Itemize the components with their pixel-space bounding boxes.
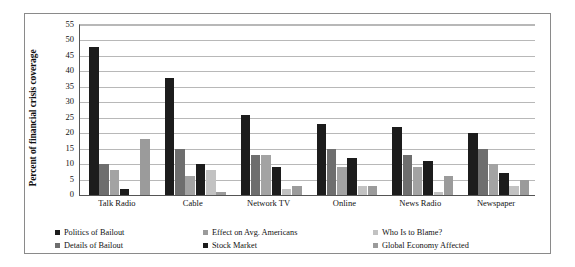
bar — [261, 155, 271, 195]
bar — [478, 149, 488, 195]
bar — [520, 180, 530, 195]
y-tick-label: 25 — [66, 112, 75, 122]
bar-group — [156, 25, 232, 195]
bar — [140, 139, 150, 195]
legend-swatch-icon — [55, 243, 60, 248]
legend-label: Who Is to Blame? — [382, 228, 442, 237]
chart-frame: Percent of financial crisis coverage 555… — [24, 13, 551, 254]
legend-swatch-icon — [203, 243, 208, 248]
bar — [185, 176, 195, 195]
legend-item: Who Is to Blame? — [373, 227, 535, 238]
bar — [347, 158, 357, 195]
bar — [120, 189, 130, 195]
y-tick-label: 5 — [70, 174, 74, 184]
y-axis-ticks: 5550454035302520151050 — [55, 24, 77, 194]
bar-group — [308, 25, 384, 195]
bar — [423, 161, 433, 195]
legend-item: Effect on Avg. Americans — [203, 227, 373, 238]
legend-swatch-icon — [55, 230, 60, 235]
y-tick-label: 15 — [66, 143, 75, 153]
bar-group-bars — [80, 25, 156, 195]
bar — [216, 192, 226, 195]
y-tick-label: 10 — [66, 158, 75, 168]
bar — [282, 189, 292, 195]
bar — [358, 186, 368, 195]
y-tick-label: 40 — [66, 65, 75, 75]
figure-root: Percent of financial crisis coverage 555… — [0, 0, 575, 267]
bar — [499, 173, 509, 195]
legend-swatch-icon — [373, 230, 378, 235]
bar-series-container — [80, 25, 535, 195]
bar-group-bars — [308, 25, 384, 195]
bar — [99, 164, 109, 195]
bar — [403, 155, 413, 195]
bar-group — [459, 25, 535, 195]
bar-group-bars — [383, 25, 459, 195]
x-axis-label: Cable — [155, 198, 231, 208]
legend-item: Details of Bailout — [55, 240, 203, 251]
bar — [434, 192, 444, 195]
bar-group-bars — [156, 25, 232, 195]
y-tick-label: 45 — [66, 50, 75, 60]
x-axis-label: Newspaper — [458, 198, 534, 208]
bar — [317, 124, 327, 195]
legend-label: Politics of Bailout — [64, 228, 124, 237]
legend-item: Global Economy Affected — [373, 240, 535, 251]
y-tick-label: 20 — [66, 127, 75, 137]
y-tick-label: 50 — [66, 34, 75, 44]
legend-swatch-icon — [373, 243, 378, 248]
legend-label: Stock Market — [212, 241, 257, 250]
plot-area-wrapper: Percent of financial crisis coverage 555… — [55, 24, 542, 212]
bar-group — [80, 25, 156, 195]
legend-label: Global Economy Affected — [382, 241, 469, 250]
bar-group — [232, 25, 308, 195]
y-axis-title: Percent of financial crisis coverage — [28, 25, 38, 211]
bar — [468, 133, 478, 195]
bar — [175, 149, 185, 195]
bar — [272, 167, 282, 195]
legend-label: Details of Bailout — [64, 241, 123, 250]
bar-group-bars — [459, 25, 535, 195]
x-axis-label: Online — [307, 198, 383, 208]
bar — [337, 167, 347, 195]
chart-legend: Politics of BailoutEffect on Avg. Americ… — [55, 227, 535, 251]
y-tick-label: 0 — [70, 189, 74, 199]
bar — [251, 155, 261, 195]
bar — [196, 164, 206, 195]
x-axis-label: Talk Radio — [79, 198, 155, 208]
x-axis-label: Network TV — [231, 198, 307, 208]
y-tick-label: 30 — [66, 96, 75, 106]
bar — [327, 149, 337, 195]
bar — [206, 170, 216, 195]
bar — [489, 164, 499, 195]
x-axis-label: News Radio — [382, 198, 458, 208]
bar — [89, 47, 99, 195]
legend-label: Effect on Avg. Americans — [212, 228, 297, 237]
bar — [509, 186, 519, 195]
legend-item: Stock Market — [203, 240, 373, 251]
bar — [392, 127, 402, 195]
bar — [292, 186, 302, 195]
bar — [165, 78, 175, 195]
bar-group-bars — [232, 25, 308, 195]
legend-swatch-icon — [203, 230, 208, 235]
y-tick-label: 35 — [66, 81, 75, 91]
bar — [110, 170, 120, 195]
plot-area — [79, 24, 535, 196]
bar — [368, 186, 378, 195]
bar-group — [383, 25, 459, 195]
bar — [444, 176, 454, 195]
bar — [241, 115, 251, 195]
y-tick-label: 55 — [66, 19, 75, 29]
legend-item: Politics of Bailout — [55, 227, 203, 238]
bar — [413, 167, 423, 195]
